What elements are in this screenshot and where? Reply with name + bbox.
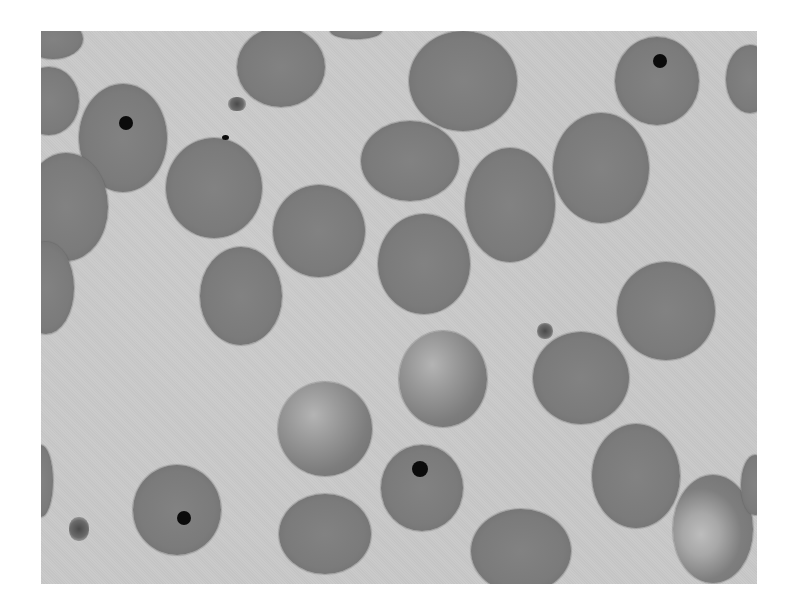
red-blood-cell — [617, 262, 715, 360]
red-blood-cell — [279, 494, 371, 574]
red-blood-cell-with-inclusion — [381, 445, 463, 531]
red-blood-cell-with-inclusion — [133, 465, 221, 555]
red-blood-cell — [553, 113, 649, 223]
red-blood-cell — [41, 445, 53, 517]
red-blood-cell — [278, 382, 372, 476]
red-blood-cell-with-inclusion — [615, 37, 699, 125]
red-blood-cell — [399, 331, 487, 427]
red-blood-cell — [409, 31, 517, 131]
red-blood-cell — [330, 31, 382, 39]
howell-jolly-body — [119, 116, 133, 130]
debris-speck — [222, 135, 229, 140]
red-blood-cell — [273, 185, 365, 277]
red-blood-cell — [41, 67, 79, 135]
platelet — [228, 97, 246, 111]
blood-smear-micrograph — [41, 31, 757, 584]
red-blood-cell — [361, 121, 459, 201]
red-blood-cell — [41, 31, 83, 59]
red-blood-cell — [200, 247, 282, 345]
red-blood-cell — [471, 509, 571, 584]
howell-jolly-body — [653, 54, 667, 68]
red-blood-cell — [237, 31, 325, 107]
red-blood-cell — [592, 424, 680, 528]
red-blood-cell — [726, 45, 757, 113]
platelet — [537, 323, 553, 339]
red-blood-cell — [166, 138, 262, 238]
red-blood-cell — [533, 332, 629, 424]
red-blood-cell — [465, 148, 555, 262]
howell-jolly-body — [412, 461, 428, 477]
platelet — [69, 517, 89, 541]
red-blood-cell — [378, 214, 470, 314]
howell-jolly-body — [177, 511, 191, 525]
